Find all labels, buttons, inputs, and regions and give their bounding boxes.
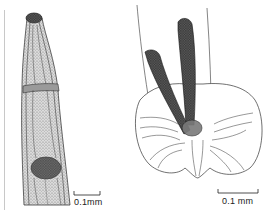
- scale-label-left: 0.1mm: [74, 197, 103, 207]
- anterior-end-drawing: [22, 13, 70, 205]
- bursa-drawing: [135, 5, 262, 178]
- scale-label-right: 0.1 mm: [222, 196, 253, 206]
- scientific-illustration: 0.1mm 0.1 mm: [0, 0, 270, 214]
- scale-bar-left: [74, 191, 100, 195]
- scale-bar-right: [218, 189, 258, 193]
- drawing-canvas: [0, 0, 270, 214]
